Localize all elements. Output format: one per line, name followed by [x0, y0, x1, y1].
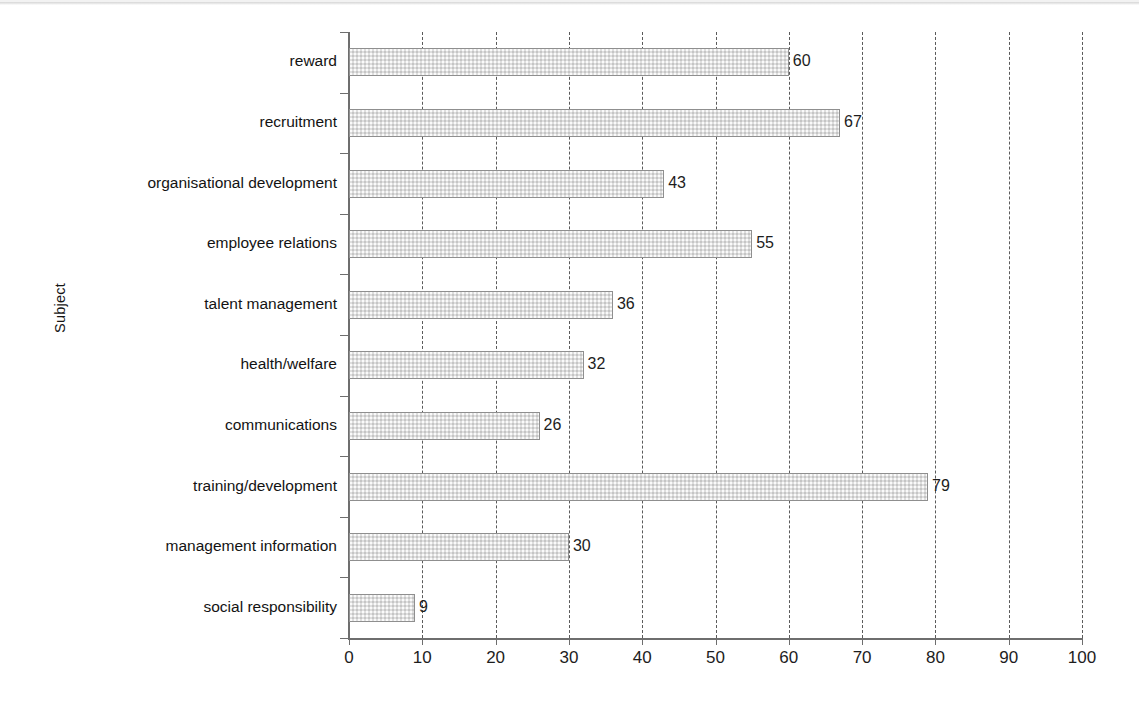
- category-label: recruitment: [0, 113, 337, 131]
- scan-edge-line: [0, 2, 1139, 5]
- bar-row[interactable]: 36: [349, 291, 1082, 319]
- y-tick: [340, 274, 349, 275]
- x-tick: [789, 638, 790, 645]
- x-tick: [935, 638, 936, 645]
- y-tick: [340, 32, 349, 33]
- bar-row[interactable]: 55: [349, 230, 1082, 258]
- bar[interactable]: [349, 48, 789, 76]
- bar-row[interactable]: 79: [349, 473, 1082, 501]
- plot-area: 0102030405060708090100 60674355363226793…: [349, 32, 1082, 638]
- x-tick-label: 60: [759, 648, 819, 668]
- y-tick: [340, 517, 349, 518]
- bar[interactable]: [349, 533, 569, 561]
- x-tick-label: 90: [979, 648, 1039, 668]
- bar[interactable]: [349, 594, 415, 622]
- category-label: social responsibility: [0, 598, 337, 616]
- bar-row[interactable]: 9: [349, 594, 1082, 622]
- bar-value-label: 32: [584, 355, 606, 373]
- category-label: reward: [0, 52, 337, 70]
- gridline: [1082, 32, 1083, 638]
- x-tick-label: 10: [392, 648, 452, 668]
- x-tick-label: 100: [1052, 648, 1112, 668]
- x-tick: [496, 638, 497, 645]
- bar[interactable]: [349, 109, 840, 137]
- x-tick: [349, 638, 350, 645]
- x-tick-label: 30: [539, 648, 599, 668]
- bar-row[interactable]: 67: [349, 109, 1082, 137]
- y-tick: [340, 214, 349, 215]
- x-tick: [642, 638, 643, 645]
- bar-value-label: 26: [540, 416, 562, 434]
- bar-row[interactable]: 60: [349, 48, 1082, 76]
- bar-value-label: 79: [928, 477, 950, 495]
- bar-value-label: 67: [840, 113, 862, 131]
- y-tick: [340, 153, 349, 154]
- x-tick: [1009, 638, 1010, 645]
- chart-page: Subject 0102030405060708090100 606743553…: [0, 0, 1139, 708]
- x-tick: [569, 638, 570, 645]
- x-tick-label: 50: [686, 648, 746, 668]
- category-label: talent management: [0, 295, 337, 313]
- bar-value-label: 60: [789, 52, 811, 70]
- x-tick: [716, 638, 717, 645]
- bar[interactable]: [349, 170, 664, 198]
- bar-value-label: 55: [752, 234, 774, 252]
- bar[interactable]: [349, 291, 613, 319]
- y-tick: [340, 396, 349, 397]
- bar-row[interactable]: 30: [349, 533, 1082, 561]
- category-label: communications: [0, 416, 337, 434]
- x-tick: [422, 638, 423, 645]
- bar-row[interactable]: 43: [349, 170, 1082, 198]
- x-tick-label: 20: [466, 648, 526, 668]
- x-tick-label: 40: [612, 648, 672, 668]
- bar[interactable]: [349, 412, 540, 440]
- bar-row[interactable]: 26: [349, 412, 1082, 440]
- category-label: employee relations: [0, 234, 337, 252]
- bar[interactable]: [349, 230, 752, 258]
- category-label: training/development: [0, 477, 337, 495]
- y-tick: [340, 335, 349, 336]
- bar-value-label: 43: [664, 174, 686, 192]
- y-tick: [340, 577, 349, 578]
- x-tick: [1082, 638, 1083, 645]
- y-tick: [340, 638, 349, 639]
- category-label: management information: [0, 537, 337, 555]
- bar-value-label: 36: [613, 295, 635, 313]
- x-tick-label: 80: [905, 648, 965, 668]
- x-tick-label: 70: [832, 648, 892, 668]
- category-label: organisational development: [0, 174, 337, 192]
- category-label: health/welfare: [0, 355, 337, 373]
- bar-value-label: 9: [415, 598, 428, 616]
- bar[interactable]: [349, 351, 584, 379]
- bar-value-label: 30: [569, 537, 591, 555]
- y-tick: [340, 93, 349, 94]
- x-tick: [862, 638, 863, 645]
- bar-row[interactable]: 32: [349, 351, 1082, 379]
- bar[interactable]: [349, 473, 928, 501]
- y-tick: [340, 456, 349, 457]
- x-tick-label: 0: [319, 648, 379, 668]
